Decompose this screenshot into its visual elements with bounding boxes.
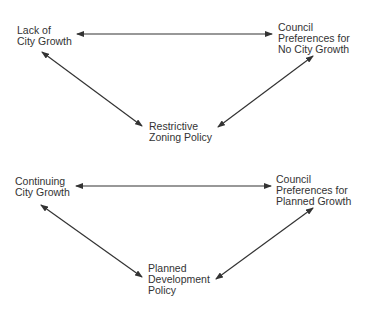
diagram-planned-growth: Continuing City Growth Council Preferenc…: [0, 155, 366, 310]
node-continuing-city-growth: Continuing City Growth: [15, 176, 70, 198]
edge-right-bottom: [218, 56, 313, 127]
node-planned-development-policy: Planned Development Policy: [148, 263, 210, 296]
diagram-no-growth: Lack of City Growth Council Preferences …: [0, 0, 366, 155]
node-council-preferences-no-growth: Council Preferences for No City Growth: [278, 22, 350, 55]
edge-right-bottom: [216, 208, 313, 279]
edge-left-bottom: [42, 52, 142, 126]
node-lack-of-city-growth: Lack of City Growth: [17, 25, 72, 47]
node-council-preferences-planned-growth: Council Preferences for Planned Growth: [276, 174, 351, 207]
node-restrictive-zoning-policy: Restrictive Zoning Policy: [149, 121, 212, 143]
edge-left-bottom: [41, 205, 142, 277]
